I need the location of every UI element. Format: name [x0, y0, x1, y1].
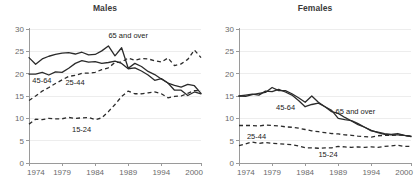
x-tick-label: 1989 — [329, 168, 347, 177]
series-line-25-44 — [29, 50, 201, 100]
chart-figure: Males 0510152025301974197919841989199420… — [0, 0, 420, 193]
x-tick-label: 1984 — [296, 168, 314, 177]
series-annotation: 15-24 — [72, 125, 91, 134]
panel-females: Females 05101520253019741979198419891994… — [210, 0, 420, 193]
series-annotation: 45-64 — [276, 103, 295, 112]
series-annotation: 25-44 — [247, 132, 266, 141]
y-tick-label: 10 — [15, 114, 24, 123]
x-tick-label: 1989 — [119, 168, 137, 177]
x-tick-label: 2000 — [395, 168, 413, 177]
series-line-65-and-over — [29, 46, 201, 93]
y-tick-label: 25 — [15, 47, 24, 56]
y-tick-label: 0 — [20, 159, 25, 168]
y-tick-label: 25 — [225, 47, 234, 56]
y-tick-label: 5 — [20, 137, 25, 146]
x-tick-label: 1974 — [27, 168, 45, 177]
y-tick-label: 10 — [225, 114, 234, 123]
y-tick-label: 30 — [15, 25, 24, 34]
series-annotation: 15-24 — [318, 150, 337, 159]
x-tick-label: 1979 — [263, 168, 281, 177]
y-tick-label: 20 — [225, 70, 234, 79]
x-tick-label: 1974 — [237, 168, 255, 177]
x-tick-label: 1994 — [362, 168, 380, 177]
x-tick-label: 1984 — [86, 168, 104, 177]
series-line-15-24 — [239, 142, 411, 148]
x-tick-label: 2000 — [185, 168, 203, 177]
y-tick-label: 30 — [225, 25, 234, 34]
y-tick-label: 15 — [225, 92, 234, 101]
series-annotation: 65 and over — [336, 107, 376, 116]
y-tick-label: 20 — [15, 70, 24, 79]
plot-males: 05101520253019741979198419891994200065 a… — [0, 0, 210, 193]
series-annotation: 45-64 — [32, 76, 51, 85]
series-annotation: 25-44 — [65, 78, 84, 87]
y-tick-label: 5 — [230, 137, 235, 146]
y-tick-label: 15 — [15, 92, 24, 101]
x-tick-label: 1994 — [152, 168, 170, 177]
series-annotation: 65 and over — [108, 31, 148, 40]
series-line-45-64 — [239, 88, 411, 137]
x-tick-label: 1979 — [53, 168, 71, 177]
plot-females: 05101520253019741979198419891994200045-6… — [210, 0, 420, 193]
y-tick-label: 0 — [230, 159, 235, 168]
panel-males: Males 0510152025301974197919841989199420… — [0, 0, 210, 193]
